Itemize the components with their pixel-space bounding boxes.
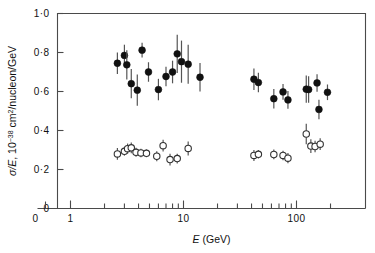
x-axis-label: E (GeV) xyxy=(193,233,231,245)
data-point xyxy=(303,131,309,137)
data-point xyxy=(145,69,152,76)
x-tick-label: 10 xyxy=(178,213,190,224)
data-point xyxy=(314,80,321,87)
x-tick-label: 1 xyxy=(68,213,74,224)
data-point xyxy=(160,143,166,149)
y-axis-ticks: 00·20·40·60·81·0 xyxy=(34,8,64,214)
data-point xyxy=(155,86,162,93)
y-axis-label: σ/E, 10−38 cm2/nucleon/GeV xyxy=(6,46,18,176)
data-point xyxy=(139,47,146,54)
data-point xyxy=(167,156,173,162)
data-series-filled-circles xyxy=(114,35,331,119)
x-axis-ticks: 0110100 xyxy=(33,201,331,224)
data-point xyxy=(174,155,180,161)
data-point xyxy=(317,141,323,147)
y-tick-label: 0 xyxy=(44,203,50,214)
data-point xyxy=(271,151,277,157)
data-point xyxy=(185,61,192,68)
y-tick-label: 0·8 xyxy=(34,47,50,58)
data-point xyxy=(280,88,287,95)
data-point xyxy=(316,106,323,113)
data-point xyxy=(324,89,331,96)
data-series-open-circles xyxy=(114,124,323,166)
data-point xyxy=(114,151,120,157)
y-tick-label: 0·6 xyxy=(34,86,50,97)
data-point xyxy=(143,150,149,156)
data-point xyxy=(197,74,204,81)
data-point xyxy=(255,151,261,157)
data-point xyxy=(285,96,292,103)
data-point xyxy=(169,69,176,76)
x-tick-label-zero: 0 xyxy=(33,213,39,224)
data-point xyxy=(174,50,181,57)
y-tick-label: 1·0 xyxy=(34,8,50,19)
data-point xyxy=(123,61,130,68)
data-point xyxy=(185,145,191,151)
x-tick-label: 100 xyxy=(288,213,306,224)
figure-container: 00·20·40·60·81·0 0110100 E (GeV) σ/E, 10… xyxy=(0,0,375,253)
data-point xyxy=(163,73,170,80)
y-tick-label: 0·2 xyxy=(34,164,50,175)
data-point xyxy=(285,155,291,161)
data-point xyxy=(134,87,141,94)
data-point xyxy=(255,79,262,86)
y-tick-label: 0·4 xyxy=(34,125,50,136)
data-point xyxy=(178,58,185,65)
data-point xyxy=(305,86,312,93)
scatter-plot: 00·20·40·60·81·0 0110100 E (GeV) σ/E, 10… xyxy=(0,0,375,253)
data-point xyxy=(128,80,135,87)
data-point xyxy=(154,153,160,159)
data-point xyxy=(270,95,277,102)
data-point xyxy=(114,60,121,67)
